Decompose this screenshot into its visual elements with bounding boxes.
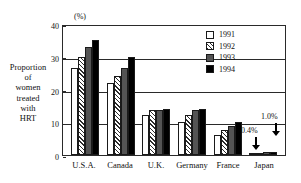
legend-label-1992: 1992	[219, 42, 235, 51]
unit-label: (%)	[74, 12, 86, 21]
y-axis-label-line-6: HRT	[2, 113, 54, 123]
y-axis-label-line-3: women	[2, 82, 54, 92]
y-axis-tick-40: 40	[51, 22, 63, 31]
bar-group	[174, 26, 210, 155]
legend-item-1993: 1993	[206, 53, 235, 62]
legend-swatch-1991	[206, 31, 214, 39]
bar	[199, 109, 206, 155]
x-axis-labels: U.S.A.CanadaU.K.GermanyFranceJapan	[62, 160, 286, 170]
x-axis-label-germany: Germany	[174, 160, 210, 170]
annotation-label: 1.0%	[261, 112, 278, 121]
y-axis-label-line-5: with	[2, 103, 54, 113]
legend-swatch-1993	[206, 54, 214, 62]
legend-swatch-1994	[206, 65, 214, 73]
legend-item-1991: 1991	[206, 30, 235, 39]
bar	[71, 68, 78, 155]
annotation-label: 0.4%	[241, 126, 258, 135]
bar	[107, 83, 114, 155]
legend-label-1994: 1994	[219, 65, 235, 74]
bar	[156, 110, 163, 155]
legend: 1991199219931994	[206, 30, 235, 74]
arrow-stem	[255, 137, 257, 145]
x-axis-label-uk: U.K.	[138, 160, 174, 170]
bar-group	[67, 26, 103, 155]
legend-item-1994: 1994	[206, 65, 235, 74]
arrow-head	[252, 145, 260, 150]
bar	[128, 57, 135, 155]
y-axis-tick-10: 10	[51, 120, 63, 129]
x-axis-label-usa: U.S.A.	[66, 160, 102, 170]
bar	[256, 153, 263, 155]
bar	[121, 68, 128, 155]
y-axis-label: Proportion of women treated with HRT	[2, 62, 54, 123]
legend-swatch-1992	[206, 42, 214, 50]
bar	[178, 122, 185, 155]
bar-groups	[63, 26, 285, 155]
x-axis-label-japan: Japan	[246, 160, 282, 170]
y-axis-tick-20: 20	[51, 87, 63, 96]
legend-item-1992: 1992	[206, 42, 235, 51]
bar	[221, 130, 228, 155]
chart-root: Proportion of women treated with HRT (%)…	[0, 0, 301, 183]
bar	[192, 110, 199, 155]
bar	[228, 126, 235, 155]
bar	[185, 115, 192, 155]
legend-label-1991: 1991	[219, 30, 235, 39]
annotation-arrow-icon	[251, 137, 260, 150]
bar	[142, 115, 149, 155]
y-axis-tick-30: 30	[51, 54, 63, 63]
bar	[270, 152, 277, 155]
bar	[78, 57, 85, 155]
bar	[249, 153, 256, 155]
bar-group	[103, 26, 139, 155]
arrow-head	[272, 131, 280, 136]
bar	[149, 110, 156, 155]
x-axis-label-canada: Canada	[102, 160, 138, 170]
legend-label-1993: 1993	[219, 53, 235, 62]
plot-area: 010203040 0.4%1.0%	[62, 25, 286, 156]
bar-group	[138, 26, 174, 155]
bar	[263, 152, 270, 155]
y-axis-label-line-4: treated	[2, 93, 54, 103]
bar	[114, 76, 121, 155]
bar	[92, 40, 99, 155]
annotation-arrow-icon	[271, 123, 280, 136]
y-axis-label-line-2: of	[2, 72, 54, 82]
bar	[163, 109, 170, 155]
y-axis-tick-mark	[63, 157, 66, 158]
x-axis-label-france: France	[210, 160, 246, 170]
bar	[214, 135, 221, 155]
y-axis-label-line-1: Proportion	[2, 62, 54, 72]
arrow-stem	[275, 123, 277, 131]
bar	[85, 47, 92, 155]
